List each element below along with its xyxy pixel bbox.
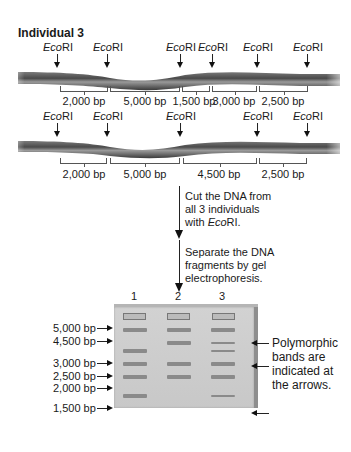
fragment-label: 2,500 bp [262,168,305,180]
band-lane1-1500 [123,394,147,398]
band-lane1-3000 [123,349,147,353]
fragment-bracket [259,158,307,164]
lane-label-2: 2 [175,290,181,302]
step-cut-text: Cut the DNA from all 3 individuals with … [185,190,271,229]
fragment-label: 5,000 bp [124,168,167,180]
lane-label-1: 1 [131,290,137,302]
ladder-1500: 1,500 bp [53,402,111,414]
band-lane3-3000 [211,350,235,352]
ecori-site: EcoRI [243,41,273,63]
band-lane3-1500 [211,395,235,397]
band-lane2-2500 [167,362,191,366]
band-lane2-5000 [167,328,191,332]
fragment-bracket [60,86,108,92]
fragment-bracket [183,158,257,164]
fragment-label: 4,500 bp [198,168,241,180]
band-lane1-2500 [123,362,147,366]
band-lane3-2500 [211,362,235,366]
ladder-2500: 2,500 bp [53,370,111,382]
band-lane2-4500 [167,341,191,345]
ecori-site: EcoRI [293,110,323,132]
ecori-site: EcoRI [166,41,196,63]
ecori-site: EcoRI [93,110,123,132]
ecori-site: EcoRI [43,41,73,63]
down-arrow-icon [175,230,183,239]
ladder-3000: 3,000 bp [53,357,111,369]
ladder-2000: 2,000 bp [53,382,111,394]
fragment-label: 5,000 bp [124,95,167,107]
step-arrow-line [179,186,180,231]
ecori-site: EcoRI [43,110,73,132]
gel [114,307,254,408]
fragment-bracket [182,86,210,92]
fragment-bracket [259,86,308,92]
lane-label-3: 3 [219,290,225,302]
fragment-bracket [60,158,107,164]
ladder-4500: 4,500 bp [53,335,111,347]
band-lane3-4500 [211,342,235,344]
band-lane2-2000 [167,375,191,379]
gel-side-edge [254,307,258,408]
ecori-site: EcoRI [293,41,323,63]
step-separate-text: Separate the DNA fragments by gel electr… [185,246,274,285]
band-lane3-5000 [211,328,235,332]
fragment-bracket [110,158,180,164]
band-lane3-2000 [211,375,235,379]
individual-title: Individual 3 [18,26,84,40]
fragment-label: 2,000 bp [63,95,106,107]
dna-strand-bottom [0,138,351,160]
ecori-site: EcoRI [243,110,273,132]
fragment-label: 1,500 bp [173,95,216,107]
ecori-site: EcoRI [198,41,228,63]
well-lane-2 [167,313,190,320]
well-lane-3 [212,313,235,320]
step-arrow-line [179,240,180,285]
polymorphic-note: Polymorphic bands are indicated at the a… [272,336,338,392]
polymorphic-arrow-icon [253,413,269,414]
ecori-site: EcoRI [166,110,196,132]
fragment-label: 2,000 bp [63,168,106,180]
ladder-5000: 5,000 bp [53,322,111,334]
fragment-label: 3,000 bp [213,95,256,107]
band-lane1-2000 [123,375,147,379]
fragment-bracket [212,86,257,92]
ecori-site: EcoRI [93,41,123,63]
fragment-bracket [110,86,180,92]
polymorphic-arrow-icon [253,343,269,344]
band-lane1-5000 [123,328,147,332]
fragment-label: 2,500 bp [262,95,305,107]
polymorphic-arrow-icon [253,366,269,367]
well-lane-1 [123,313,146,320]
